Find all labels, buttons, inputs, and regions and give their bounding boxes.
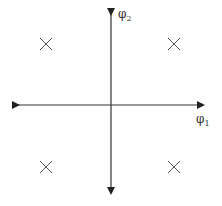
point-marker-top-right — [168, 38, 180, 50]
constellation-diagram — [0, 0, 222, 206]
horizontal-axis-label: φ1 — [196, 113, 210, 128]
point-marker-top-left — [40, 38, 52, 50]
point-marker-bottom-right — [168, 161, 180, 173]
point-marker-bottom-left — [40, 161, 52, 173]
vertical-axis-label: φ2 — [118, 8, 132, 23]
